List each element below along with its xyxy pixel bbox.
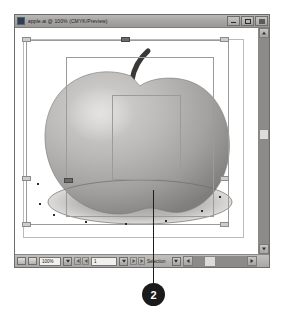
zoom-level-field[interactable]: 100% <box>39 257 61 266</box>
anchor-point[interactable] <box>53 214 55 216</box>
horizontal-scroll-thumb[interactable] <box>204 256 216 267</box>
page-nav-group <box>74 257 89 265</box>
window-controls <box>227 16 268 26</box>
last-page-button[interactable] <box>138 257 145 265</box>
anchor-point[interactable] <box>219 196 221 198</box>
maximize-button[interactable] <box>241 16 254 26</box>
previous-page-button[interactable] <box>82 257 89 265</box>
anchor-point[interactable] <box>165 220 167 222</box>
apple-stem <box>132 51 148 80</box>
selection-handle-inner[interactable] <box>64 178 73 183</box>
canvas-area[interactable] <box>15 28 258 254</box>
next-page-button[interactable] <box>130 257 137 265</box>
callout-badge: 2 <box>142 283 165 306</box>
status-dropdown-arrow[interactable] <box>172 257 181 266</box>
anchor-point[interactable] <box>37 183 39 185</box>
horizontal-scroll-track[interactable] <box>193 256 247 267</box>
horizontal-scrollbar[interactable] <box>183 256 257 267</box>
page-number-field[interactable]: 1 <box>91 257 117 266</box>
anchor-point[interactable] <box>39 203 41 205</box>
minimize-button[interactable] <box>227 16 240 26</box>
scroll-up-arrow[interactable] <box>259 28 269 38</box>
vertical-scroll-track[interactable] <box>259 38 269 244</box>
window-title: apple.ai @ 100% (CMYK/Preview) <box>28 18 227 24</box>
selection-handle-bottom-left[interactable] <box>22 222 31 227</box>
selection-handle-bottom-right[interactable] <box>220 222 229 227</box>
status-indicator-text[interactable]: Selection <box>147 259 170 264</box>
selection-handle-mid-left[interactable] <box>22 176 31 181</box>
apple-highlight <box>66 86 134 142</box>
document-window: apple.ai @ 100% (CMYK/Preview) <box>14 14 270 268</box>
selection-handle-mid-right[interactable] <box>220 176 229 181</box>
close-button[interactable] <box>255 16 268 26</box>
scroll-right-arrow[interactable] <box>247 256 257 266</box>
vertical-scrollbar[interactable] <box>258 28 269 254</box>
apple-illustration[interactable] <box>28 42 239 232</box>
page-info-icon[interactable] <box>17 257 26 265</box>
zoom-dropdown-arrow[interactable] <box>63 257 72 266</box>
scroll-left-arrow[interactable] <box>183 256 193 266</box>
apple-body <box>45 72 229 214</box>
first-page-button[interactable] <box>74 257 81 265</box>
window-body <box>15 28 269 254</box>
anchor-point[interactable] <box>85 221 87 223</box>
status-bar: 100% 1 Selection <box>15 254 269 267</box>
selection-handle-top-center[interactable] <box>121 37 130 42</box>
title-bar[interactable]: apple.ai @ 100% (CMYK/Preview) <box>15 15 269 28</box>
selection-handle-top-left[interactable] <box>22 37 31 42</box>
anchor-point[interactable] <box>125 223 127 225</box>
anchor-point[interactable] <box>201 210 203 212</box>
selection-handle-top-right[interactable] <box>220 37 229 42</box>
layers-icon[interactable] <box>28 257 37 265</box>
page-nav-group-right <box>130 257 145 265</box>
callout-leader-line <box>153 190 154 283</box>
scroll-down-arrow[interactable] <box>259 244 269 254</box>
vertical-scroll-thumb[interactable] <box>259 129 269 140</box>
page-dropdown-arrow[interactable] <box>119 257 128 266</box>
illustrator-app-icon <box>17 17 25 25</box>
